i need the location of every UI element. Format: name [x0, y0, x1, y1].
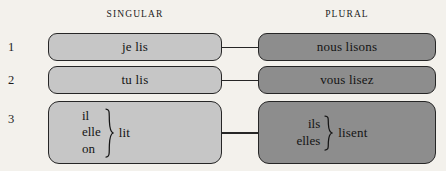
pronoun-item: on: [82, 141, 101, 158]
pronoun-item: elle: [82, 124, 101, 141]
cell-singular-2[interactable]: tu lis: [48, 66, 222, 94]
pronoun-item: il: [82, 108, 101, 125]
verb-form: lisent: [338, 125, 367, 141]
pronoun-group: il elle on lit: [82, 108, 130, 158]
cell-text: nous lisons: [317, 39, 377, 55]
pronoun-item: ils: [296, 116, 320, 133]
pronoun-list-plural: ils elles: [296, 116, 320, 149]
connector-line-1: [221, 47, 259, 49]
right-curly-brace-icon: [324, 115, 333, 151]
row-number-1: 1: [8, 40, 24, 55]
cell-plural-1[interactable]: nous lisons: [258, 33, 436, 61]
verb-form: lit: [119, 125, 130, 141]
pronoun-list-singular: il elle on: [82, 108, 101, 158]
connector-line-2: [221, 80, 259, 82]
cell-text: je lis: [122, 39, 148, 55]
row-number-2: 2: [8, 73, 24, 88]
pronoun-group: ils elles lisent: [296, 115, 367, 151]
cell-text: vous lisez: [320, 72, 374, 88]
pronoun-item: elles: [296, 133, 320, 150]
row-number-3: 3: [8, 112, 24, 127]
conjugation-table: SINGULAR PLURAL 1 je lis nous lisons 2 t…: [0, 0, 446, 171]
right-curly-brace-icon: [105, 108, 114, 158]
connector-line-3: [221, 132, 259, 134]
column-header-singular: SINGULAR: [48, 9, 222, 19]
cell-plural-3[interactable]: ils elles lisent: [258, 101, 436, 164]
cell-text: tu lis: [122, 72, 149, 88]
cell-plural-2[interactable]: vous lisez: [258, 66, 436, 94]
column-header-plural: PLURAL: [258, 9, 436, 19]
cell-singular-1[interactable]: je lis: [48, 33, 222, 61]
cell-singular-3[interactable]: il elle on lit: [48, 101, 222, 164]
